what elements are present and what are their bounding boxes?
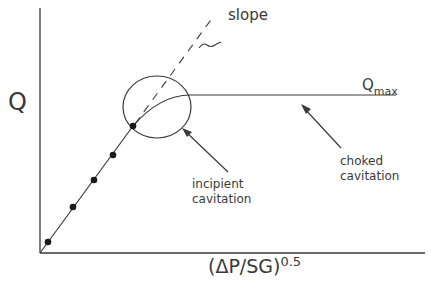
choked-arrow-icon (301, 104, 341, 148)
choked-label-line2: cavitation (340, 169, 420, 184)
x-axis-label: (ΔP/SG)0.5 (208, 254, 301, 277)
qmax-label: Qmax (362, 76, 398, 98)
qmax-label-base: Q (362, 76, 374, 94)
y-axis-label: Q (8, 88, 27, 116)
incipient-label-line2: cavitation (192, 192, 272, 207)
incipient-label-line1: incipient (192, 177, 272, 192)
incipient-cavitation-label: incipient cavitation (192, 177, 272, 207)
qmax-label-sub: max (374, 85, 398, 98)
data-point (45, 239, 52, 246)
data-point (70, 204, 77, 211)
incipient-arrow-icon (182, 128, 228, 172)
linear-flow-line (40, 126, 133, 253)
data-point (130, 123, 137, 130)
slope-tilde-icon (199, 42, 221, 48)
data-point (110, 152, 117, 159)
choked-label-line1: choked (340, 154, 420, 169)
choked-cavitation-label: choked cavitation (340, 154, 420, 184)
data-point (91, 177, 98, 184)
transition-curve (133, 95, 190, 126)
slope-label: slope (228, 6, 268, 24)
slope-dashed-line (135, 17, 213, 124)
diagram-canvas (0, 0, 431, 288)
x-axis-label-base: (ΔP/SG) (208, 255, 280, 277)
x-axis-label-exponent: 0.5 (280, 254, 301, 269)
